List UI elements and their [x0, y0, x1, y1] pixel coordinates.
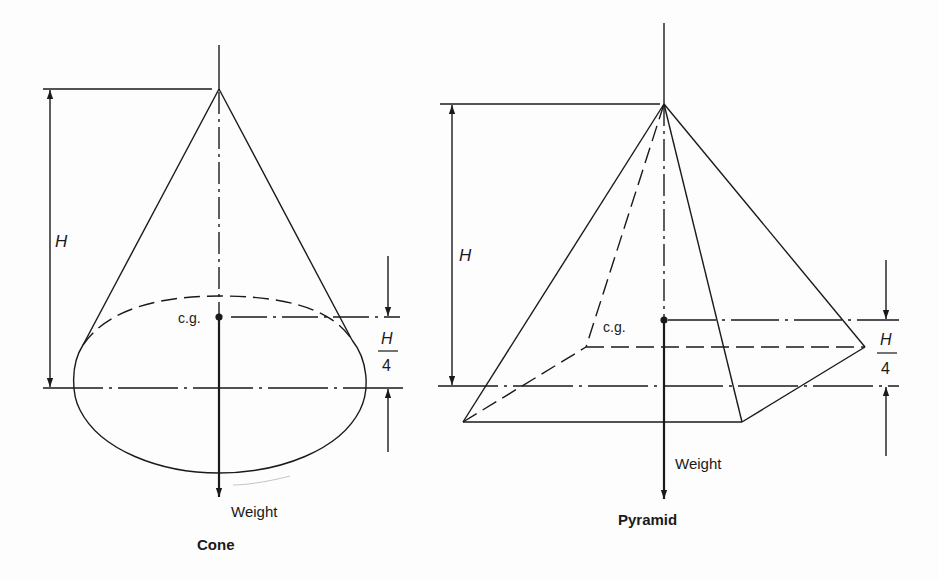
- figure-canvas: H c.g. H 4 Weight Cone H: [0, 0, 939, 580]
- pyramid-edge-back-left-hidden: [586, 104, 664, 347]
- cone-offset-denominator: 4: [382, 357, 391, 374]
- pyramid-offset-numerator: H: [880, 331, 892, 348]
- cone-faint-mark: [233, 476, 290, 485]
- cone-offset-numerator: H: [381, 330, 393, 347]
- cone-title: Cone: [197, 536, 235, 553]
- cone-base-hidden-arc: [83, 296, 352, 345]
- cone-cg-point: [215, 313, 222, 320]
- pyramid-diagram: [438, 23, 899, 499]
- pyramid-offset-denominator: 4: [881, 360, 890, 377]
- pyramid-base-left-hidden: [463, 347, 586, 422]
- pyramid-weight-label: Weight: [675, 455, 722, 472]
- pyramid-base-right: [742, 347, 865, 422]
- cone-left-edge: [83, 89, 219, 345]
- pyramid-title: Pyramid: [618, 511, 677, 528]
- cone-cg-label: c.g.: [178, 310, 201, 326]
- pyramid-cg-point: [660, 316, 667, 323]
- cone-height-label: H: [55, 232, 68, 251]
- pyramid-edge-front-left: [463, 104, 664, 422]
- cone-weight-label: Weight: [231, 503, 278, 520]
- cone-diagram: [43, 45, 403, 497]
- pyramid-cg-label: c.g.: [603, 319, 626, 335]
- pyramid-height-label: H: [459, 246, 472, 265]
